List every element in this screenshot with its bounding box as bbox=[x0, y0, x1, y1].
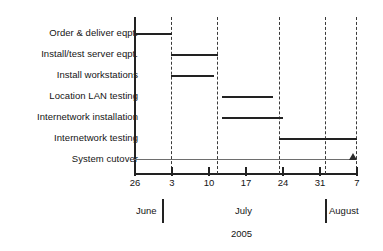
month-label-june: June bbox=[136, 205, 157, 216]
tick-mark-7 bbox=[356, 167, 358, 176]
tick-label-17: 17 bbox=[234, 177, 258, 188]
task-label-install-test-server: Install/test server eqpt. bbox=[41, 49, 138, 59]
month-label-august: August bbox=[329, 205, 359, 216]
task-label-location-lan-testing: Location LAN testing bbox=[49, 91, 138, 101]
bar-internetwork-install bbox=[222, 117, 283, 119]
task-label-internetwork-install: Internetwork installation bbox=[37, 112, 138, 122]
bar-install-test-server bbox=[171, 54, 218, 56]
gridline-jul-24 bbox=[279, 17, 280, 174]
tick-label-31: 31 bbox=[308, 177, 332, 188]
tick-mark-31 bbox=[319, 167, 321, 176]
tick-label-10: 10 bbox=[197, 177, 221, 188]
system-cutover-line bbox=[134, 159, 353, 160]
task-label-install-workstations: Install workstations bbox=[57, 70, 138, 80]
y-axis-line bbox=[134, 17, 136, 174]
gridline-jul-3 bbox=[171, 17, 172, 174]
system-cutover-milestone-triangle-icon bbox=[349, 153, 357, 160]
tick-mark-3 bbox=[171, 167, 173, 176]
month-separator-july-august bbox=[325, 199, 327, 223]
bar-internetwork-testing bbox=[279, 138, 357, 140]
month-separator-june-july bbox=[162, 199, 164, 223]
gridline-aug-7 bbox=[356, 17, 357, 174]
gridline-jul-12 bbox=[217, 17, 218, 174]
bar-order-deliver-eqpt bbox=[134, 33, 172, 35]
task-label-internetwork-testing: Internetwork testing bbox=[54, 133, 138, 143]
year-label: 2005 bbox=[231, 228, 252, 239]
task-label-system-cutover: System cutover bbox=[72, 154, 138, 164]
tick-label-7: 7 bbox=[345, 177, 369, 188]
task-label-order-deliver-eqpt: Order & deliver eqpt. bbox=[49, 28, 138, 38]
tick-label-3: 3 bbox=[160, 177, 184, 188]
bar-location-lan-testing bbox=[222, 96, 273, 98]
tick-mark-10 bbox=[208, 167, 210, 176]
tick-label-26: 26 bbox=[123, 177, 147, 188]
tick-mark-24 bbox=[282, 167, 284, 176]
gantt-chart: Order & deliver eqpt. Install/test serve… bbox=[0, 0, 383, 251]
tick-mark-17 bbox=[245, 167, 247, 176]
gridline-aug-1 bbox=[325, 17, 326, 174]
month-label-july: July bbox=[235, 205, 252, 216]
tick-label-24: 24 bbox=[271, 177, 295, 188]
tick-mark-26 bbox=[134, 167, 136, 176]
bar-install-workstations bbox=[171, 75, 214, 77]
